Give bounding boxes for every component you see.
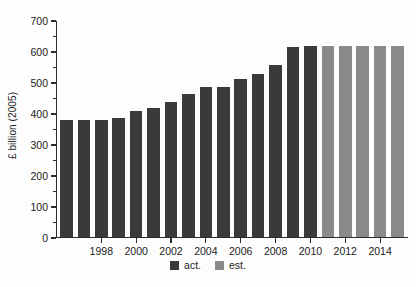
legend-label: est. [229,259,246,271]
x-tick [240,238,241,243]
y-tick [51,20,56,21]
x-tick [170,238,171,243]
legend-item: est. [215,259,246,271]
bar [304,46,317,236]
y-tick-minor [53,36,56,37]
y-tick-minor [53,160,56,161]
bar [147,108,160,236]
y-tick [51,113,56,114]
bar [234,79,247,236]
plot-area: 0100200300400500600700 19982000200220042… [56,21,408,238]
x-tick-label: 2008 [264,245,287,257]
y-tick-label: 400 [30,108,48,120]
y-tick [51,175,56,176]
y-tick-label: 700 [30,15,48,27]
x-tick-label: 2006 [229,245,252,257]
bar [130,111,143,237]
y-tick-minor [53,222,56,223]
x-tick-label: 2004 [194,245,217,257]
x-tick-label: 2012 [334,245,357,257]
bar [287,47,300,237]
y-tick-label: 0 [42,232,48,244]
x-axis-line [56,237,408,238]
y-axis-title-text: £ billion (2005) [8,91,19,158]
bar [356,46,369,236]
bar [78,120,91,237]
x-tick [101,238,102,243]
x-tick [310,238,311,243]
y-tick-minor [53,67,56,68]
legend-item: act. [170,259,201,271]
y-tick [51,206,56,207]
bar [200,87,213,237]
y-tick-minor [53,98,56,99]
legend-label: act. [184,259,201,271]
legend-swatch-icon [215,261,224,270]
bar [322,46,335,236]
bar [269,65,282,237]
x-tick [380,238,381,243]
bar-chart-figure: £ billion (2005) 0100200300400500600700 … [0,0,416,287]
bar [391,46,404,236]
x-tick [345,238,346,243]
y-axis-title: £ billion (2005) [2,0,24,250]
bar [95,120,108,237]
x-tick-label: 2002 [159,245,182,257]
x-tick-label: 2000 [124,245,147,257]
bar [112,118,125,237]
bar [339,46,352,236]
bar [374,46,387,236]
x-tick [136,238,137,243]
y-tick [51,51,56,52]
y-tick [51,144,56,145]
x-tick [205,238,206,243]
y-tick-label: 300 [30,139,48,151]
bar [165,102,178,237]
bar [217,87,230,237]
y-tick [51,82,56,83]
bar [252,74,265,236]
bar [182,94,195,237]
y-tick-minor [53,191,56,192]
x-tick [275,238,276,243]
y-tick-label: 100 [30,201,48,213]
legend: act.est. [0,259,416,271]
legend-swatch-icon [170,261,179,270]
x-tick-label: 2010 [299,245,322,257]
x-tick-label: 1998 [90,245,113,257]
y-tick-minor [53,129,56,130]
y-axis-line [56,21,57,238]
y-tick-label: 600 [30,46,48,58]
y-tick [51,237,56,238]
x-tick-label: 2014 [368,245,391,257]
y-tick-label: 200 [30,170,48,182]
y-tick-label: 500 [30,77,48,89]
bar [60,120,73,237]
